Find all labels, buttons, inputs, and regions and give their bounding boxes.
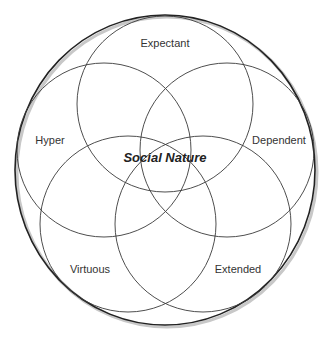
label-dependent: Dependent [252,134,306,146]
label-extended: Extended [215,263,261,275]
center-label: Social Nature [123,150,206,165]
label-virtuous: Virtuous [70,263,111,275]
outer-circle-shadow [17,17,317,327]
social-nature-diagram: Expectant Hyper Dependent Virtuous Exten… [0,0,334,342]
label-expectant: Expectant [141,37,190,49]
label-hyper: Hyper [35,134,65,146]
